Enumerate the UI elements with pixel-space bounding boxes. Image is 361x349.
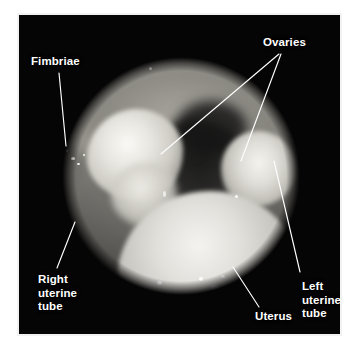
label-ovaries: Ovaries: [263, 36, 306, 50]
specular-highlight: [163, 191, 166, 197]
specular-highlight: [149, 67, 152, 70]
specular-highlight: [221, 275, 225, 278]
label-uterus: Uterus: [255, 310, 292, 324]
fimbriae-highlight: [77, 163, 80, 165]
specular-highlight: [199, 277, 203, 281]
label-left-uterine-tube: Left uterine tube: [302, 280, 340, 321]
photo-frame: FimbriaeOvariesRight uterine tubeLeft ut…: [17, 13, 342, 336]
figure-root: FimbriaeOvariesRight uterine tubeLeft ut…: [0, 0, 361, 349]
fimbriae-highlight: [65, 149, 68, 152]
laparoscopic-photograph: FimbriaeOvariesRight uterine tubeLeft ut…: [19, 15, 340, 334]
specular-highlight: [211, 285, 219, 290]
specular-highlight: [235, 195, 238, 198]
fimbriae-highlight: [71, 157, 75, 160]
label-fimbriae: Fimbriae: [31, 55, 80, 69]
label-right-uterine-tube: Right uterine tube: [38, 273, 77, 314]
specular-highlight: [157, 281, 162, 285]
fimbriae-highlight: [83, 154, 85, 156]
